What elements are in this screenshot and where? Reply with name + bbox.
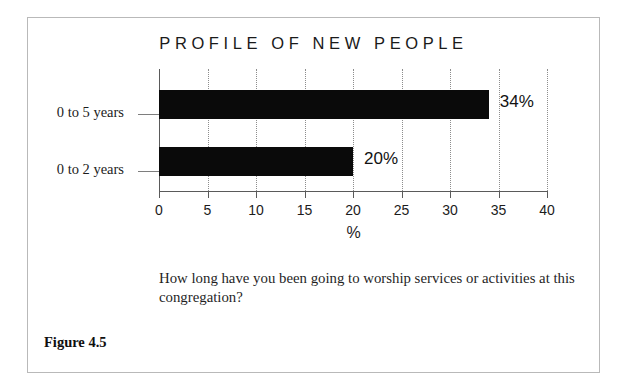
x-tick-label-10: 10 [248,202,264,218]
x-tick-20 [353,191,354,198]
x-tick-35 [499,191,500,198]
x-tick-0 [159,191,160,198]
x-tick-40 [547,191,548,198]
gridline-25 [402,69,403,191]
gridline-30 [450,69,451,191]
question-caption: How long have you been going to worship … [159,269,579,307]
x-tick-label-40: 40 [539,202,555,218]
category-tick-1 [138,171,159,172]
plot-area: 34%20% [159,69,547,191]
x-tick-30 [450,191,451,198]
gridline-40 [547,69,548,191]
figure-frame: PROFILE OF NEW PEOPLE 34%20% 0 to 5 year… [27,17,600,373]
gridline-20 [353,69,354,191]
figure-label: Figure 4.5 [44,334,107,351]
x-tick-10 [256,191,257,198]
x-tick-5 [208,191,209,198]
bar-value-label-0: 34% [500,92,534,112]
x-tick-label-20: 20 [345,202,361,218]
x-tick-label-5: 5 [204,202,212,218]
bar-0 [159,90,489,119]
x-tick-25 [402,191,403,198]
x-tick-label-35: 35 [491,202,507,218]
x-tick-label-30: 30 [442,202,458,218]
x-axis-title: % [159,224,548,242]
x-tick-label-15: 15 [297,202,313,218]
x-tick-label-25: 25 [394,202,410,218]
chart-title: PROFILE OF NEW PEOPLE [28,34,599,53]
category-tick-0 [138,114,159,115]
bar-value-label-1: 20% [364,149,398,169]
bar-1 [159,147,353,176]
x-tick-label-0: 0 [155,202,163,218]
x-tick-15 [305,191,306,198]
category-label-1: 0 to 2 years [57,161,124,178]
gridline-35 [499,69,500,191]
category-label-0: 0 to 5 years [57,104,124,121]
